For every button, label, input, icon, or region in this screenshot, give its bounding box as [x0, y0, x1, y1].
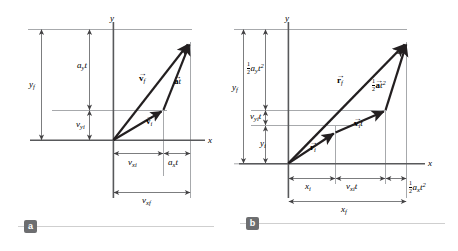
label-x-left-b: xi	[305, 182, 311, 192]
label-vector-a-t-a: →at	[174, 77, 181, 86]
label-x-right-a: axt	[168, 158, 178, 168]
label-vector-v-i-t-b: →vit	[354, 119, 363, 129]
label-y-middle-b: vyit	[250, 112, 261, 122]
axis-label-x-a: x	[208, 135, 212, 145]
guide-lines	[28, 30, 192, 199]
label-x-right-b: 12axt2	[409, 180, 426, 194]
axis-label-y-b: y	[285, 13, 289, 23]
axis-label-y-a: y	[110, 13, 114, 23]
label-y-total-b: yf	[232, 83, 238, 93]
label-x-total-b: xf	[341, 205, 347, 215]
axis-label-x-b: x	[428, 158, 432, 168]
caption-rule-b	[258, 223, 445, 224]
label-vector-half-a-t-squared-b: 12→at2	[372, 78, 386, 92]
label-x-left-a: vxi	[128, 158, 137, 168]
label-y-lower-b: yi	[260, 139, 266, 149]
panel-badge-b: b	[246, 217, 259, 230]
label-x-total-a: vxf	[142, 196, 151, 206]
label-y-total-a: yf	[29, 80, 35, 90]
caption-rule-a	[36, 226, 214, 227]
panel-a: x y yf ayt vyi vxi axt vxf →vf →vi →at a	[0, 0, 229, 251]
label-vector-r-f-b: →rf	[337, 76, 343, 86]
panel-badge-a: a	[24, 220, 37, 233]
label-x-middle-b: vxit	[346, 182, 357, 192]
label-vector-v-f-a: →vf	[139, 74, 145, 84]
label-vector-r-i-b: →ri	[310, 143, 316, 153]
vector-arrows-b	[288, 45, 406, 164]
panel-b-caption: b	[240, 216, 445, 230]
label-vector-v-i-a: →vi	[146, 117, 152, 127]
vector-v-i	[113, 112, 161, 141]
panel-a-graphic	[0, 0, 229, 251]
kinematics-vector-figure: x y yf ayt vyi vxi axt vxf →vf →vi →at a	[0, 0, 458, 251]
panel-b: x y yf 12ayt2 vyit yi xi vxit 12axt2 xf …	[229, 0, 458, 251]
panel-a-caption: a	[18, 219, 214, 233]
label-y-lower-a: vyi	[76, 120, 85, 130]
label-y-upper-b: 12ayt2	[247, 61, 264, 75]
label-y-upper-a: ayt	[77, 61, 87, 71]
